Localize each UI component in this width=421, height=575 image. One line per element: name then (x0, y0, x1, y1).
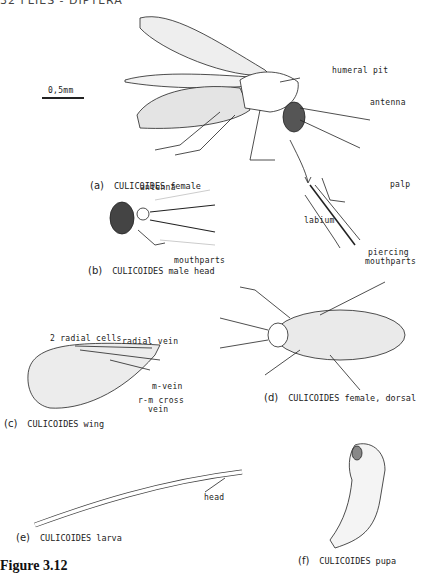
caption-b: (b)CULICOIDES male head (88, 265, 215, 276)
figure-title: Figure 3.12 (0, 558, 67, 574)
label-mouthparts-b: mouthparts (174, 256, 225, 265)
label-palp: palp (390, 180, 410, 189)
label-radial-cells: 2 radial cells (50, 334, 122, 343)
figure-a-female-lateral (125, 17, 370, 160)
caption-f: (f)CULICOIDES pupa (298, 555, 396, 566)
caption-e: (e)CULICOIDES larva (16, 532, 122, 543)
label-rm-vein: vein (148, 405, 168, 414)
scale-bar-label: 0,5mm (48, 86, 74, 95)
label-antenna-a: antenna (370, 98, 406, 107)
caption-d: (d)CULICOIDES female, dorsal (264, 392, 416, 403)
label-humeral-pit: humeral pit (332, 66, 388, 75)
figure-f-pupa (330, 444, 385, 548)
label-antenna-b: antenna (140, 183, 176, 192)
label-radial-vein: radial vein (122, 337, 178, 346)
label-m-vein: m-vein (152, 382, 183, 391)
label-mouthparts-a: mouthparts (365, 257, 416, 266)
figure-d-female-dorsal (220, 282, 405, 390)
label-piercing: piercing (368, 248, 409, 257)
figure-b-male-head (110, 190, 215, 245)
label-head: head (204, 493, 224, 502)
label-labium: labium (304, 216, 335, 225)
label-rm-cross: r-m cross (138, 396, 184, 405)
caption-c: (c)CULICOIDES wing (4, 418, 104, 429)
